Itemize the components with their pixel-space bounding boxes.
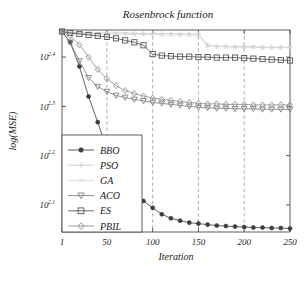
marker-filled-circle <box>169 216 173 220</box>
legend-label-PBIL: PBIL <box>99 221 122 232</box>
marker-filled-circle <box>187 221 191 225</box>
legend-label-PSO: PSO <box>99 160 118 171</box>
chart-legend[interactable]: BBOPSOGAACOESPBIL <box>62 135 142 232</box>
x-tick-label-250: 250 <box>283 237 297 247</box>
marker-filled-circle <box>233 225 237 229</box>
legend-label-BBO: BBO <box>100 145 119 156</box>
legend-label-ACO: ACO <box>99 190 120 201</box>
marker-filled-circle <box>215 224 219 228</box>
x-tick-label-150: 150 <box>192 237 206 247</box>
marker-filled-circle <box>196 222 200 226</box>
x-tick-label-1: 1 <box>60 237 65 247</box>
chart-title: Rosenbrock function <box>122 8 214 20</box>
marker-filled-circle <box>251 226 255 230</box>
marker-filled-circle <box>279 226 283 230</box>
x-axis-label: Iteration <box>158 251 194 262</box>
marker-filled-circle <box>79 148 84 153</box>
marker-filled-circle <box>261 226 265 230</box>
legend-label-ES: ES <box>99 205 111 216</box>
marker-filled-circle <box>151 206 155 210</box>
x-tick-label-50: 50 <box>102 237 112 247</box>
y-tick-label-exponent-1: 2.3 <box>48 100 55 106</box>
marker-filled-circle <box>160 212 164 216</box>
marker-filled-circle <box>270 226 274 230</box>
x-tick-label-200: 200 <box>237 237 251 247</box>
x-tick-label-100: 100 <box>146 237 160 247</box>
y-tick-label-exponent-3: 2.1 <box>48 199 55 205</box>
y-tick-label-exponent-0: 2.4 <box>48 51 55 57</box>
legend-label-GA: GA <box>100 175 114 186</box>
marker-filled-circle <box>206 223 210 227</box>
marker-filled-circle <box>87 94 91 98</box>
y-axis-label: log(MSE) <box>7 111 19 151</box>
marker-filled-circle <box>224 224 228 228</box>
marker-filled-circle <box>178 219 182 223</box>
marker-filled-circle <box>242 225 246 229</box>
chart-figure: Rosenbrock function 150100150200250 102.… <box>0 0 308 285</box>
marker-filled-circle <box>96 120 100 124</box>
marker-filled-circle <box>77 64 81 68</box>
marker-filled-circle <box>288 227 292 231</box>
y-tick-label-exponent-2: 2.2 <box>48 149 55 155</box>
